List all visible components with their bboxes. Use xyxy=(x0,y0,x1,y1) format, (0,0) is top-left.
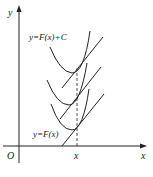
x-axis-label: x xyxy=(140,150,146,161)
y-axis-label: y xyxy=(7,7,13,18)
tangent-top xyxy=(62,37,103,88)
diagram-canvas: y x O x y=F(x)+C y=F(x) xyxy=(0,0,153,177)
y-axis-arrow-icon xyxy=(17,5,22,12)
origin-label: O xyxy=(7,150,14,161)
x-axis-arrow-icon xyxy=(140,144,147,149)
tangent-middle xyxy=(60,67,101,119)
x-tick-label: x xyxy=(73,150,79,161)
curve-middle xyxy=(47,63,87,105)
curve-bottom xyxy=(51,89,89,130)
top-curve-label: y=F(x)+C xyxy=(28,32,68,42)
tangent-bottom xyxy=(62,94,104,146)
antiderivative-family-diagram: y x O x y=F(x)+C y=F(x) xyxy=(0,0,153,177)
bottom-curve-label: y=F(x) xyxy=(32,129,59,139)
